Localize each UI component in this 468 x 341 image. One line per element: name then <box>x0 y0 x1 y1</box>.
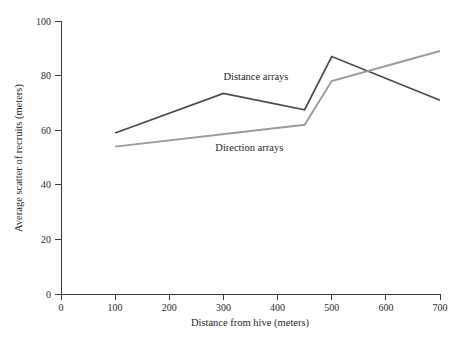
y-tick-label: 60 <box>41 125 51 136</box>
y-tick-label: 0 <box>46 289 51 300</box>
x-tick-label: 400 <box>270 302 285 313</box>
chart-figure: 0 20 40 60 80 100 0 100 200 300 400 500 … <box>0 0 468 341</box>
x-tick-label: 100 <box>108 302 123 313</box>
y-axis-title: Average scatter of recruits (meters) <box>13 84 25 232</box>
x-tick-label: 700 <box>433 302 448 313</box>
y-tick-label: 80 <box>41 70 51 81</box>
y-axis-tick-labels: 0 20 40 60 80 100 <box>36 16 51 300</box>
x-axis-tick-labels: 0 100 200 300 400 500 600 700 <box>59 302 448 313</box>
x-tick-label: 200 <box>162 302 177 313</box>
y-tick-label: 20 <box>41 234 51 245</box>
x-tick-label: 500 <box>324 302 339 313</box>
series-line-distance-arrays <box>115 56 440 132</box>
x-axis-title: Distance from hive (meters) <box>191 317 310 329</box>
series-line-direction-arrays <box>115 51 440 147</box>
chart-axes <box>61 21 440 294</box>
series-label-distance-arrays: Distance arrays <box>223 71 288 82</box>
x-tick-label: 300 <box>216 302 231 313</box>
x-tick-label: 600 <box>378 302 393 313</box>
x-axis-ticks <box>61 294 440 300</box>
y-axis-ticks <box>55 21 61 294</box>
series-label-direction-arrays: Direction arrays <box>215 142 283 153</box>
x-tick-label: 0 <box>59 302 64 313</box>
line-chart: 0 20 40 60 80 100 0 100 200 300 400 500 … <box>0 0 468 341</box>
y-tick-label: 40 <box>41 179 51 190</box>
y-tick-label: 100 <box>36 16 51 27</box>
